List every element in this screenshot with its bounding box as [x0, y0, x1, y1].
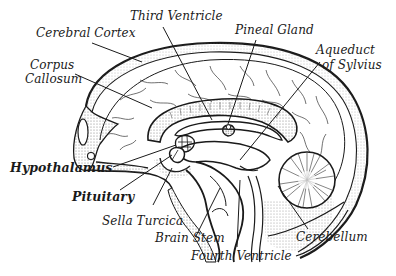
label-corpus-line1: Corpus — [30, 59, 74, 72]
label-corpus-line2: Callosum — [25, 73, 82, 86]
label-sella-turcica: Sella Turcica — [102, 215, 183, 228]
label-brain-stem: Brain Stem — [155, 232, 225, 245]
label-hypothalamus: Hypothalamus — [10, 161, 113, 174]
label-aqueduct-line2: of Sylvius — [322, 59, 382, 72]
label-cerebral-cortex: Cerebral Cortex — [36, 27, 136, 40]
leader-hypothalamus — [113, 145, 176, 167]
leader-brain-stem — [196, 188, 220, 236]
label-pituitary: Pituitary — [72, 190, 134, 203]
leader-cerebral-cortex — [92, 43, 142, 62]
label-aqueduct-line1: Aqueduct — [316, 44, 375, 57]
pineal-gland-shape — [223, 125, 235, 136]
label-pineal-gland: Pineal Gland — [235, 24, 314, 37]
label-fourth-ventricle: Fourth Ventricle — [191, 250, 292, 263]
label-third-ventricle: Third Ventricle — [130, 10, 223, 23]
label-cerebellum: Cerebellum — [296, 231, 368, 244]
